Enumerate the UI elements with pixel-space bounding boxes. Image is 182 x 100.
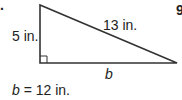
problem-number-fragment-right: 9 — [176, 3, 182, 17]
answer-value: 12 in. — [36, 82, 70, 98]
hypotenuse-label: 13 in. — [103, 18, 137, 32]
problem-number-fragment-left: . — [0, 0, 4, 12]
answer-line: b = 12 in. — [12, 83, 70, 97]
right-angle-marker — [40, 56, 47, 63]
base-label: b — [105, 67, 113, 81]
answer-equals: = — [24, 82, 32, 98]
answer-variable: b — [12, 82, 20, 98]
vertical-leg-label: 5 in. — [12, 29, 38, 43]
right-triangle — [40, 5, 177, 63]
